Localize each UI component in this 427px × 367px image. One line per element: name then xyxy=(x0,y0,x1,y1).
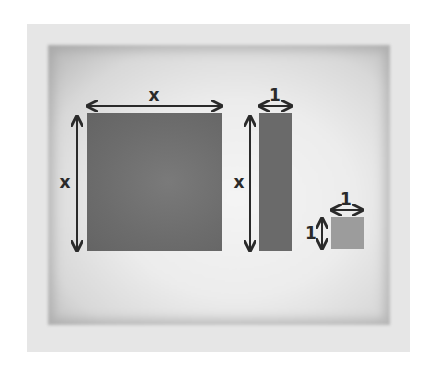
x2-width-label: x xyxy=(146,87,162,104)
unit-width-label: 1 xyxy=(338,191,354,208)
x-tile-height-label: x xyxy=(231,174,247,191)
x2-height-label: x xyxy=(57,174,73,191)
unit-height-label: 1 xyxy=(304,225,318,242)
x-tile-width-label: 1 xyxy=(267,87,283,104)
